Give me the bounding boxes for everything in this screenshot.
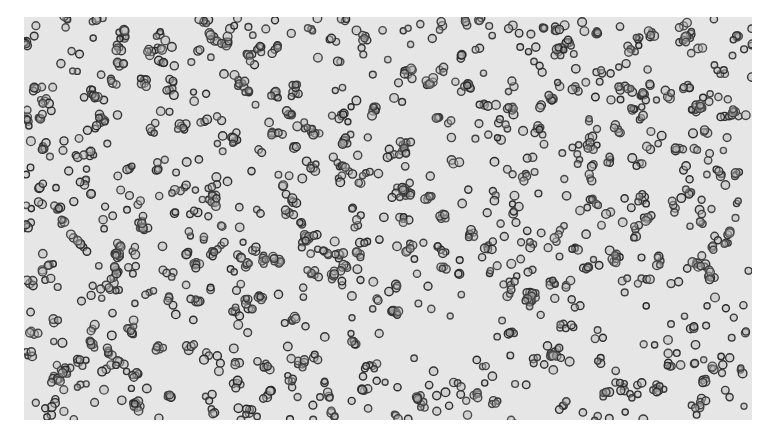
- blood-cells-field: [24, 17, 752, 420]
- micrograph-photo: [24, 17, 752, 420]
